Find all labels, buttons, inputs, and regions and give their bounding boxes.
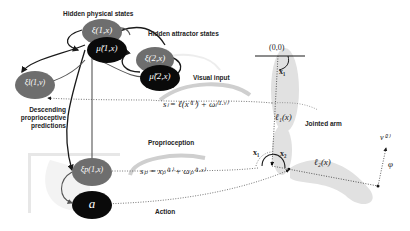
label-descending-2: proprioceptive xyxy=(19,114,66,121)
arm-x1-joint-label: x₁ xyxy=(253,148,259,157)
label-hidden-attractor: Hidden attractor states xyxy=(148,30,219,37)
background-shading xyxy=(28,55,220,213)
node-xi-l-label: ξl(1,v) xyxy=(17,78,53,87)
label-visual-input: Visual input xyxy=(193,74,230,81)
arm-l2-label: ℓ₂(x) xyxy=(314,157,331,167)
label-hidden-physical: Hidden physical states xyxy=(63,10,133,17)
arm-l1-label: ℓ₁(x) xyxy=(275,112,292,122)
arm-v2-label: v⁽²⁾ xyxy=(380,133,390,142)
label-jointed-arm: Jointed arm xyxy=(305,120,342,127)
node-xi-attractor-label: ξ(2,x) xyxy=(137,53,173,63)
label-proprioception: Proprioception xyxy=(148,139,194,146)
label-action: Action xyxy=(155,208,175,215)
label-descending-3: predictions xyxy=(26,122,66,129)
node-xi-physical-label: ξ(1,x) xyxy=(84,25,120,35)
proprio-equation: sₚ = xₚ⁽¹⁾ + ωₚ⁽¹·ˣ⁾ xyxy=(140,166,205,176)
node-mu-1-label: μ̃(1,x) xyxy=(89,43,125,53)
node-xi-p-label: ξp(1,x) xyxy=(74,165,110,174)
node-action-label: a xyxy=(74,196,110,212)
arm-phi-label: φ xyxy=(388,159,393,169)
visual-equation: sₗ = ℓ(x⁽¹⁾) + ωₗ⁽¹·ᵛ⁾ xyxy=(163,99,228,109)
arm-x1-top-label: x₁ xyxy=(279,67,285,76)
arm-x2-joint-label: x₂ xyxy=(280,149,286,158)
label-descending-1: Descending xyxy=(26,106,66,113)
arm-origin-label: (0,0) xyxy=(269,43,284,52)
node-mu-2-label: μ̃(2,x) xyxy=(142,71,178,81)
